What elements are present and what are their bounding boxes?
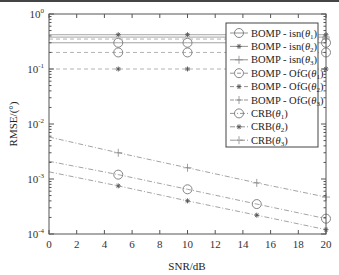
series-6 [49,161,331,223]
y-axis-label: RMSE/(°) [7,101,20,146]
x-axis-label: SNR/dB [168,260,205,272]
y-tick-label: 10-1 [27,62,44,75]
x-tick-label: 10 [182,238,194,250]
x-tick-label: 4 [102,238,108,250]
star-marker-icon [237,124,242,129]
x-tick-label: 0 [46,238,52,250]
y-tick-label: 100 [30,7,45,20]
star-marker-icon [185,32,190,37]
star-marker-icon [116,32,121,37]
x-tick-label: 20 [321,238,333,250]
plus-marker-icon [114,149,122,157]
x-tick-label: 16 [265,238,277,250]
y-tick-label: 10-3 [27,172,44,185]
plus-marker-icon [253,179,261,187]
x-tick-label: 6 [129,238,135,250]
series-7 [49,172,329,232]
plus-marker-icon [184,164,192,172]
star-marker-icon [185,67,190,72]
x-tick-label: 8 [157,238,163,250]
star-marker-icon [116,183,121,188]
x-tick-label: 14 [237,238,249,250]
star-marker-icon [116,67,121,72]
star-marker-icon [185,198,190,203]
y-tick-label: 10-2 [27,117,44,130]
x-tick-label: 12 [210,238,221,250]
rmse-vs-snr-chart: 0246810121416182010010-110-210-310-4 BOM… [0,0,339,275]
legend: BOMP - isn(θ1)BOMP - isn(θ2)BOMP - isn(θ… [226,23,324,148]
star-marker-icon [237,44,242,49]
star-marker-icon [254,213,259,218]
y-tick-label: 10-4 [27,227,44,240]
x-tick-label: 18 [293,238,305,250]
star-marker-icon [237,84,242,89]
x-tick-label: 2 [74,238,80,250]
